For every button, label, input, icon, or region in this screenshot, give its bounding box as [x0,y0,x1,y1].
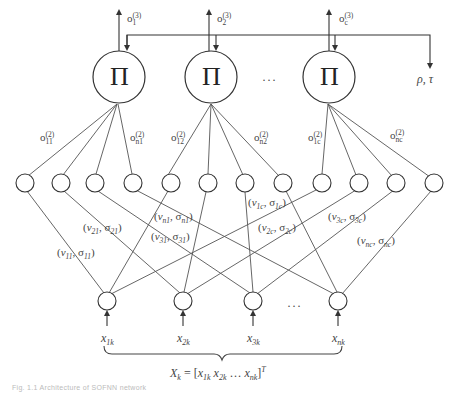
input-node-2 [174,292,192,310]
output-label-2: o(3)2 [217,13,231,27]
input-node-1 [98,292,116,310]
input-node-3 [244,292,262,310]
input-layer [98,292,347,310]
product-symbol-2: Π [202,64,221,90]
hidden-node [387,174,405,192]
product-ellipsis: ··· [262,74,277,86]
layer2-label-12: o(2)12 [171,132,185,146]
layer2-label-n1: o(2)n1 [130,132,144,146]
layer2-label-n2: o(2)n2 [254,132,268,146]
input-arrows [107,313,338,326]
input-vector-formula: Xk = [x1k x2k … xnk]T [170,366,266,382]
hidden-node [16,174,34,192]
hidden-node [162,174,180,192]
input-brace [104,346,342,360]
layer2-label-11: o(2)11 [40,132,54,146]
input-label-1: x1k [101,332,114,347]
hidden-node [313,174,331,192]
feedback-line [127,35,430,66]
weight-label-21: (v21, σ21) [83,222,122,236]
layer2-label-nc: o(2)nc [390,130,404,144]
hidden-node [199,174,217,192]
sofnn-architecture-diagram [0,0,451,395]
hidden-node [236,174,254,192]
feedback-bus [127,35,430,66]
weight-label-2c: (v2c, σ2c) [258,222,296,236]
hidden-node [86,174,104,192]
layer2-label-1c: o(2)1c [308,132,322,146]
weight-label-nc: (vnc, σnc) [357,235,395,249]
hidden-node [124,174,142,192]
product-symbol-c: Π [320,64,339,90]
output-label-c: o(3)c [339,13,353,27]
input-ellipsis: ··· [287,300,302,312]
output-label-1: o(3)1 [127,13,141,27]
feedback-output-label: ρ, τ [417,73,433,85]
product-symbol-1: Π [110,64,129,90]
figure-caption: Fig. 1.1 Architecture of SOFNN network [12,384,146,391]
input-label-2: x2k [177,332,190,347]
product-hidden-edges [28,104,430,177]
input-label-3: x3k [247,332,260,347]
hidden-node [274,174,292,192]
weight-label-3c: (v3c, σ3c) [328,211,366,225]
weight-label-11: (v11, σ11) [57,247,95,261]
input-node-n [329,292,347,310]
weight-label-1c: (v1c, σ1c) [248,197,286,211]
membership-layer [16,174,443,192]
weight-label-n1: (vn1, σn1) [154,211,193,225]
hidden-node [52,174,70,192]
product-layer [93,51,355,103]
weight-label-31: (v31, σ31) [151,231,190,245]
hidden-node [425,174,443,192]
hidden-node [350,174,368,192]
input-label-n: xnk [332,332,345,347]
